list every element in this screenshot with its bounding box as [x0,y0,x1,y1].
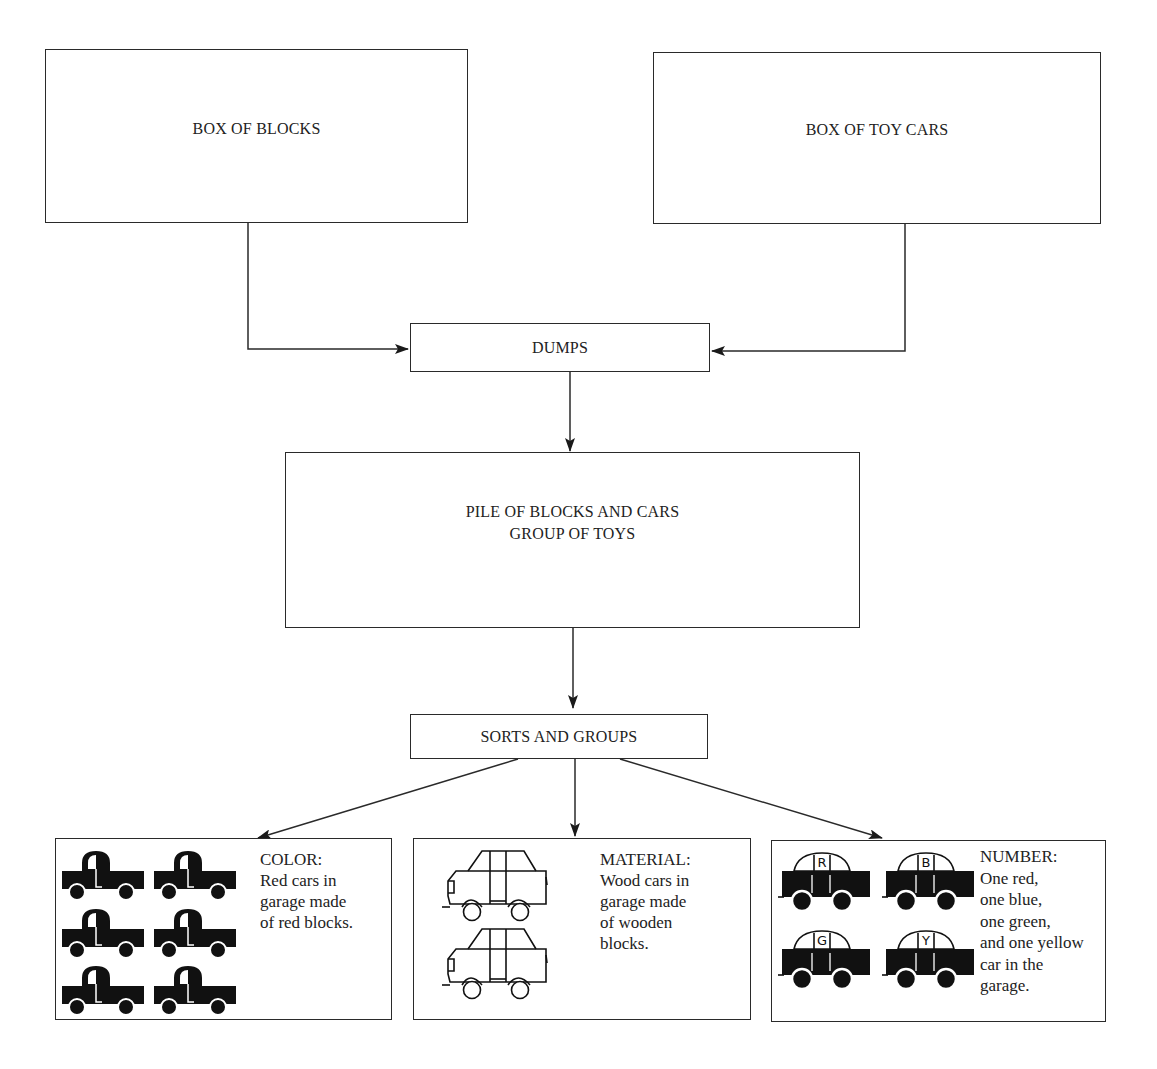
sorts-and-groups-label: SORTS AND GROUPS [481,726,638,748]
number-outcome-box: R B G Y NUMBER: One red, one blue, one g… [771,840,1106,1022]
pile-node: PILE OF BLOCKS AND CARS GROUP OF TOYS [285,452,860,628]
dumps-label: DUMPS [532,337,588,359]
box-of-toy-cars-node: BOX OF TOY CARS [653,52,1101,224]
material-line-2: garage made [600,891,691,912]
solid-truck-icon [60,845,240,1015]
arrow-blocks-to-dumps [248,223,408,349]
lettered-car-icon: R B G Y [778,851,978,1016]
number-title: NUMBER: [980,846,1084,868]
box-of-toy-cars-label: BOX OF TOY CARS [806,119,949,141]
solid-truck-icon-grid [60,845,240,1015]
outline-car-icon-group [434,847,564,1012]
number-line-4: and one yellow [980,932,1084,954]
material-line-4: blocks. [600,933,691,954]
arrow-sorts-to-color [258,759,518,838]
sorts-and-groups-node: SORTS AND GROUPS [410,714,708,759]
color-line-3: of red blocks. [260,912,353,933]
material-outcome-box: MATERIAL: Wood cars in garage made of wo… [413,838,751,1020]
color-line-1: Red cars in [260,870,353,891]
number-line-5: car in the [980,954,1084,976]
number-line-2: one blue, [980,889,1084,911]
pile-label-line1: PILE OF BLOCKS AND CARS [286,501,859,523]
number-line-3: one green, [980,911,1084,933]
number-line-1: One red, [980,868,1084,890]
pile-label-line2: GROUP OF TOYS [286,523,859,545]
box-of-blocks-label: BOX OF BLOCKS [193,118,321,140]
car-letter-red: R [817,855,826,870]
car-letter-blue: B [922,855,931,870]
box-of-blocks-node: BOX OF BLOCKS [45,49,468,223]
arrow-sorts-to-number [620,759,882,838]
color-title: COLOR: [260,849,353,870]
material-line-3: of wooden [600,912,691,933]
material-title: MATERIAL: [600,849,691,870]
dumps-node: DUMPS [410,323,710,372]
lettered-car-icon-grid: R B G Y [778,851,978,1016]
number-line-6: garage. [980,975,1084,997]
arrow-cars-to-dumps [712,224,905,351]
color-line-2: garage made [260,891,353,912]
outline-car-icon [434,847,564,1012]
car-letter-green: G [817,933,827,948]
car-letter-yellow: Y [921,933,930,948]
color-outcome-box: COLOR: Red cars in garage made of red bl… [55,838,392,1020]
material-line-1: Wood cars in [600,870,691,891]
